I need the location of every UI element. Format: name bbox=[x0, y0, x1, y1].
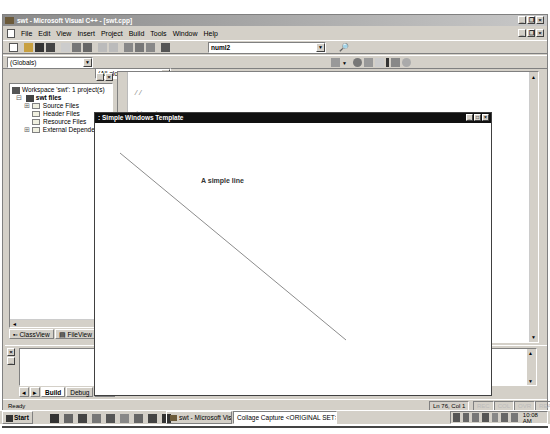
insert-breakpoint-icon[interactable] bbox=[402, 58, 411, 67]
find-in-files-icon[interactable] bbox=[161, 43, 170, 52]
menu-edit[interactable]: Edit bbox=[38, 30, 50, 37]
menu-view[interactable]: View bbox=[56, 30, 71, 37]
restore-button[interactable]: ❐ bbox=[527, 16, 535, 24]
open-icon[interactable] bbox=[24, 43, 33, 52]
tray-icon[interactable] bbox=[453, 413, 460, 422]
child-titlebar[interactable]: : Simple Windows Template _ □ × bbox=[95, 113, 491, 123]
editor-vertical-scrollbar[interactable]: ▲ ▼ bbox=[529, 72, 538, 342]
output-minimize-button[interactable]: _ bbox=[7, 357, 15, 365]
tree-item-external-dependencies[interactable]: ⊞ External Depender bbox=[24, 126, 97, 134]
tab-scroll-right[interactable]: ▸ bbox=[30, 387, 40, 397]
doc-minimize-button[interactable]: _ bbox=[518, 29, 526, 37]
class-combo[interactable]: (Globals) ▼ bbox=[7, 57, 93, 68]
scroll-up-icon[interactable]: ▲ bbox=[528, 350, 533, 356]
doc-icon bbox=[7, 29, 15, 38]
volume-icon[interactable] bbox=[492, 413, 499, 422]
taskbar-item-visual-cpp[interactable]: swt - Microsoft Visual C++ bbox=[166, 411, 232, 424]
close-button[interactable]: × bbox=[536, 16, 544, 24]
cut-icon[interactable] bbox=[61, 43, 70, 52]
quick-launch-app-icon[interactable] bbox=[78, 414, 87, 423]
paste-icon[interactable] bbox=[83, 43, 92, 52]
copy-icon[interactable] bbox=[72, 43, 81, 52]
tab-classview[interactable]: ▪▫ ClassView bbox=[9, 329, 54, 339]
menu-project[interactable]: Project bbox=[101, 30, 123, 37]
chevron-down-icon[interactable]: ▼ bbox=[83, 58, 92, 67]
tray-icon[interactable] bbox=[472, 413, 479, 422]
window-list-icon[interactable] bbox=[146, 43, 155, 52]
menu-build[interactable]: Build bbox=[129, 30, 145, 37]
menu-help[interactable]: Help bbox=[204, 30, 218, 37]
quick-launch-app-icon[interactable] bbox=[92, 414, 101, 423]
output-icon[interactable] bbox=[135, 43, 144, 52]
tree-item-header-files[interactable]: Header Files bbox=[32, 110, 80, 118]
save-all-icon[interactable] bbox=[46, 43, 55, 52]
workspace-icon[interactable] bbox=[124, 43, 133, 52]
execute-icon[interactable] bbox=[386, 58, 389, 67]
child-maximize-button[interactable]: □ bbox=[474, 114, 481, 121]
clock[interactable]: 10:08 AM bbox=[523, 412, 547, 424]
tree-item-swt-files[interactable]: ⊟ swt files bbox=[16, 94, 61, 102]
quick-launch bbox=[50, 414, 173, 423]
menu-file[interactable]: File bbox=[21, 30, 32, 37]
binoculars-icon[interactable]: 🔎 bbox=[339, 43, 349, 52]
quick-launch-app-icon[interactable] bbox=[120, 414, 129, 423]
screen-bottom-border bbox=[2, 426, 548, 428]
child-minimize-button[interactable]: _ bbox=[466, 114, 473, 121]
tray-icon[interactable] bbox=[501, 413, 508, 422]
quick-launch-app-icon[interactable] bbox=[134, 414, 143, 423]
tree-item-resource-files[interactable]: Resource Files bbox=[32, 118, 86, 126]
wizard-action-icon[interactable] bbox=[331, 58, 340, 67]
new-text-file-icon[interactable] bbox=[9, 43, 18, 52]
tab-debug[interactable]: Debug bbox=[66, 387, 93, 397]
scroll-down-icon[interactable]: ▼ bbox=[528, 378, 533, 384]
output-vertical-scrollbar[interactable]: ▲ ▼ bbox=[527, 349, 536, 385]
quick-launch-app-icon[interactable] bbox=[148, 414, 157, 423]
tray-icon[interactable] bbox=[463, 413, 470, 422]
menu-tools[interactable]: Tools bbox=[150, 30, 166, 37]
doc-close-button[interactable]: × bbox=[536, 29, 544, 37]
panel-close-button[interactable]: × bbox=[105, 73, 113, 81]
chevron-down-icon[interactable]: ▼ bbox=[316, 43, 325, 52]
collapse-icon[interactable]: ⊟ bbox=[16, 94, 22, 101]
drawing-caption: A simple line bbox=[201, 177, 244, 184]
wizard-action-dropdown-icon[interactable]: ▼ bbox=[342, 60, 347, 66]
project-icon bbox=[26, 95, 34, 102]
save-icon[interactable] bbox=[35, 43, 44, 52]
doc-restore-button[interactable]: ❐ bbox=[527, 29, 535, 37]
stop-build-icon[interactable] bbox=[375, 58, 384, 67]
expand-icon[interactable]: ⊞ bbox=[24, 102, 30, 109]
tab-build[interactable]: Build bbox=[41, 387, 65, 397]
tray-icon[interactable] bbox=[511, 413, 518, 422]
build-icon[interactable] bbox=[364, 58, 373, 67]
ide-titlebar[interactable]: swt - Microsoft Visual C++ - [swt.cpp] _… bbox=[3, 15, 547, 26]
child-client-area[interactable]: A simple line bbox=[95, 123, 491, 395]
minimize-button[interactable]: _ bbox=[518, 16, 526, 24]
menu-bar: File Edit View Insert Project Build Tool… bbox=[3, 27, 547, 39]
start-button[interactable]: Start bbox=[2, 411, 33, 424]
expand-icon[interactable]: ⊞ bbox=[24, 126, 30, 133]
output-close-button[interactable]: × bbox=[7, 348, 15, 356]
undo-icon[interactable] bbox=[98, 43, 107, 52]
tree-item-source-files[interactable]: ⊞ Source Files bbox=[24, 102, 79, 110]
menu-insert[interactable]: Insert bbox=[77, 30, 95, 37]
tree-item-workspace[interactable]: Workspace 'swt': 1 project(s) bbox=[12, 86, 105, 94]
taskbar-item-collage-capture[interactable]: Collage Capture <ORIGINAL SET> bbox=[233, 411, 337, 424]
tab-scroll-left[interactable]: ◂ bbox=[19, 387, 29, 397]
quick-launch-app-icon[interactable] bbox=[106, 414, 115, 423]
scroll-up-icon[interactable]: ▲ bbox=[531, 74, 536, 80]
find-combo[interactable]: numl2 ▼ bbox=[208, 42, 326, 53]
redo-icon[interactable] bbox=[109, 43, 118, 52]
scroll-left-icon[interactable]: ◄ bbox=[10, 321, 17, 327]
tab-fileview[interactable]: ▤ FileView bbox=[55, 329, 96, 339]
drawing-canvas bbox=[95, 123, 491, 395]
quick-launch-app-icon[interactable] bbox=[64, 414, 73, 423]
tab-label: Build bbox=[45, 389, 61, 396]
compile-icon[interactable] bbox=[353, 58, 362, 67]
scroll-down-icon[interactable]: ▼ bbox=[531, 334, 536, 340]
quick-launch-desktop-icon[interactable] bbox=[50, 414, 59, 423]
menu-window[interactable]: Window bbox=[173, 30, 198, 37]
child-close-button[interactable]: × bbox=[482, 114, 489, 121]
go-icon[interactable] bbox=[391, 58, 400, 67]
tray-icon[interactable] bbox=[482, 413, 489, 422]
panel-minimize-button[interactable]: _ bbox=[96, 73, 104, 81]
